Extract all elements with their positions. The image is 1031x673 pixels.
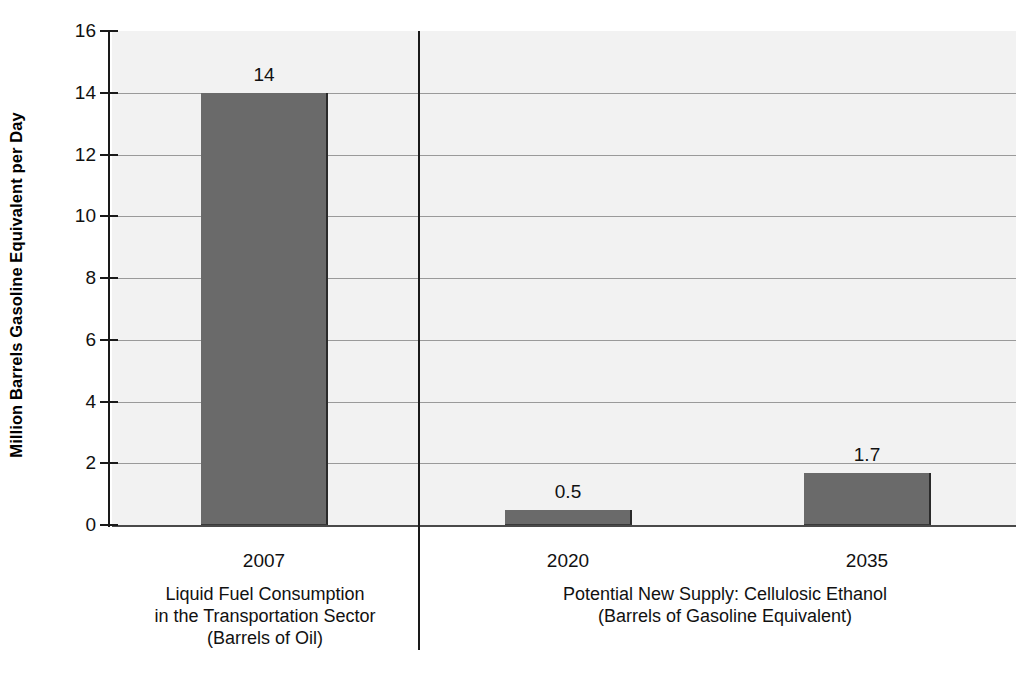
y-axis-tick	[100, 215, 118, 217]
y-axis-tick-label: 2	[54, 453, 96, 472]
y-axis-tick-label: 0	[54, 515, 96, 534]
bar-value-label-2035: 1.7	[807, 445, 927, 464]
y-axis-tick-label: 6	[54, 330, 96, 349]
group-label-liquid-fuel-consumption: Liquid Fuel Consumptionin the Transporta…	[105, 583, 425, 649]
x-axis-label-2035: 2035	[807, 551, 927, 570]
y-axis-tick-label: 8	[54, 268, 96, 287]
y-axis-tick-label: 14	[54, 83, 96, 102]
x-axis-label-2007: 2007	[204, 551, 324, 570]
y-axis-tick-label: 12	[54, 145, 96, 164]
bar-chart: Million Barrels Gasoline Equivalent per …	[0, 0, 1031, 673]
bar-2035	[804, 473, 931, 525]
y-axis-tick-label: 10	[54, 206, 96, 225]
bar-2007	[201, 93, 328, 525]
group-label-line: Potential New Supply: Cellulosic Ethanol	[440, 583, 1010, 605]
group-label-line: (Barrels of Oil)	[105, 627, 425, 649]
group-label-line: Liquid Fuel Consumption	[105, 583, 425, 605]
bar-value-label-2020: 0.5	[508, 482, 628, 501]
y-axis-title: Million Barrels Gasoline Equivalent per …	[1, 30, 31, 540]
y-axis-tick	[100, 401, 118, 403]
y-axis-tick-label: 4	[54, 392, 96, 411]
y-axis-tick	[100, 92, 118, 94]
x-axis-label-2020: 2020	[508, 551, 628, 570]
group-label-line: (Barrels of Gasoline Equivalent)	[440, 605, 1010, 627]
y-axis-tick	[100, 30, 118, 32]
y-axis-tick	[100, 524, 118, 526]
group-label-line: in the Transportation Sector	[105, 605, 425, 627]
y-axis-tick	[100, 277, 118, 279]
y-axis-tick	[100, 154, 118, 156]
y-axis-tick-label: 16	[54, 21, 96, 40]
bar-value-label-2007: 14	[204, 65, 324, 84]
y-axis-tick	[100, 339, 118, 341]
group-label-potential-new-supply: Potential New Supply: Cellulosic Ethanol…	[440, 583, 1010, 627]
gridline	[112, 525, 1016, 527]
y-axis-tick	[100, 462, 118, 464]
bar-2020	[505, 510, 632, 525]
y-axis-line	[108, 31, 110, 527]
group-divider-line	[418, 31, 420, 650]
